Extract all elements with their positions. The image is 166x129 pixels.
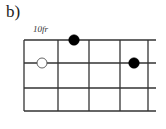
filled-dot-marker-icon	[69, 35, 80, 46]
filled-dot-marker-icon	[129, 58, 140, 69]
open-dot-marker-icon	[37, 58, 47, 68]
fretboard-diagram	[0, 0, 166, 129]
